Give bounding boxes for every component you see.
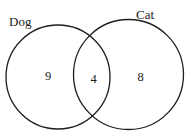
- cat-set-label: Cat: [136, 7, 154, 22]
- dog-only-value: 9: [45, 69, 51, 83]
- dog-set-label: Dog: [9, 14, 32, 29]
- intersection-value: 4: [90, 72, 97, 86]
- cat-only-value: 8: [137, 70, 143, 84]
- venn-diagram: Dog Cat 9 4 8: [0, 0, 192, 134]
